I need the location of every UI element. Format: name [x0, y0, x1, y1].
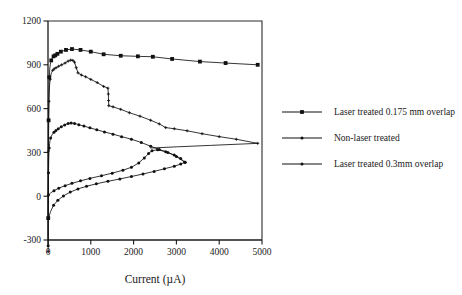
data-point-marker	[164, 150, 167, 153]
data-point-marker	[149, 145, 152, 148]
data-point-marker	[256, 63, 260, 67]
x-tick-label: 4000	[210, 247, 229, 257]
data-point-marker	[79, 48, 83, 52]
data-point-marker	[151, 149, 154, 152]
x-tick-label: 2000	[124, 247, 143, 257]
data-point-marker	[143, 156, 146, 159]
data-point-marker	[64, 48, 68, 52]
data-point-marker	[82, 125, 85, 128]
data-point-marker	[70, 182, 73, 185]
data-point-marker	[67, 122, 70, 125]
data-point-marker	[198, 60, 202, 64]
x-tick-label: 0	[46, 247, 51, 257]
data-point-marker	[130, 138, 133, 141]
data-point-marker	[56, 52, 60, 56]
data-point-marker	[88, 177, 91, 180]
data-point-marker	[163, 167, 166, 170]
y-tick-label: 600	[27, 104, 42, 114]
data-point-marker	[70, 121, 73, 124]
chart-svg: -30003006009001200010002000300040005000 …	[0, 0, 462, 295]
data-point-marker	[47, 217, 50, 220]
data-point-marker	[48, 147, 51, 150]
data-point-marker	[111, 172, 114, 175]
y-tick-label: 0	[36, 192, 41, 202]
data-point-marker	[95, 128, 98, 131]
data-point-marker	[300, 110, 304, 114]
data-point-marker	[136, 54, 140, 58]
x-tick-label: 3000	[167, 247, 186, 257]
data-point-marker	[79, 179, 82, 182]
data-point-marker	[118, 177, 121, 180]
chart-figure: -30003006009001200010002000300040005000 …	[0, 0, 462, 295]
data-point-marker	[140, 141, 143, 144]
data-point-marker	[60, 125, 63, 128]
y-tick-label: 1200	[22, 16, 41, 26]
data-point-marker	[173, 154, 176, 157]
data-point-marker	[77, 123, 80, 126]
data-point-marker	[63, 123, 66, 126]
data-point-marker	[62, 194, 65, 197]
data-point-marker	[57, 187, 60, 190]
data-point-marker	[70, 47, 74, 51]
legend-item-label: Non-laser treated	[334, 133, 400, 143]
data-point-marker	[224, 61, 228, 65]
data-point-marker	[121, 169, 124, 172]
data-point-marker	[147, 152, 150, 155]
data-point-marker	[47, 171, 50, 174]
data-point-marker	[112, 133, 115, 136]
data-point-marker	[130, 166, 133, 169]
data-point-marker	[95, 182, 98, 185]
data-point-marker	[59, 50, 63, 54]
data-point-marker	[52, 189, 55, 192]
data-point-marker	[102, 52, 106, 56]
data-point-marker	[103, 130, 106, 133]
data-point-marker	[85, 185, 88, 188]
data-point-marker	[49, 59, 53, 63]
data-point-marker	[88, 126, 91, 129]
chart-background	[0, 0, 462, 295]
data-point-marker	[179, 163, 182, 166]
data-point-marker	[57, 127, 60, 130]
data-point-marker	[119, 54, 123, 58]
data-point-marker	[100, 174, 103, 177]
x-tick-label: 1000	[81, 247, 100, 257]
data-point-marker	[120, 135, 123, 138]
data-point-marker	[183, 161, 186, 164]
data-point-marker	[89, 50, 93, 54]
x-axis-title: Current (µA)	[125, 273, 186, 286]
y-tick-label: 300	[27, 148, 42, 158]
data-point-marker	[301, 163, 304, 166]
data-point-marker	[151, 55, 155, 59]
data-point-marker	[64, 184, 67, 187]
data-point-marker	[47, 194, 50, 197]
data-point-marker	[106, 180, 109, 183]
data-point-marker	[156, 148, 159, 151]
data-point-marker	[137, 161, 140, 164]
y-tick-label: 900	[27, 60, 42, 70]
data-point-marker	[76, 187, 79, 190]
data-point-marker	[49, 137, 52, 140]
data-point-marker	[69, 191, 72, 194]
data-point-marker	[142, 173, 145, 176]
data-point-marker	[52, 204, 55, 207]
y-tick-label: -300	[24, 235, 42, 245]
data-point-marker	[179, 157, 182, 160]
data-point-marker	[170, 57, 174, 61]
data-point-marker	[73, 122, 76, 125]
data-point-marker	[153, 170, 156, 173]
legend-item-label: Laser treated 0.175 mm overlap	[334, 107, 455, 117]
x-tick-label: 5000	[253, 247, 272, 257]
legend-item-label: Laser treated 0.3mm overlap	[334, 159, 443, 169]
data-point-marker	[301, 137, 304, 140]
data-point-marker	[173, 165, 176, 168]
data-point-marker	[56, 199, 59, 202]
data-point-marker	[130, 175, 133, 178]
